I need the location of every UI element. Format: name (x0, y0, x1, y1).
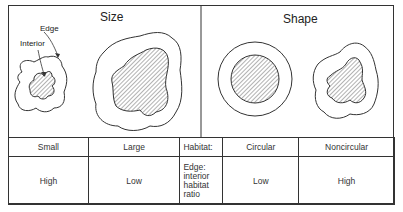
header-circular: Circular (223, 138, 299, 157)
comparison-table: Small Large Habitat: Circular Noncircula… (8, 137, 395, 205)
shape-panel-title: Shape (283, 12, 318, 26)
header-habitat: Habitat: (180, 138, 223, 157)
value-noncircular: High (299, 157, 395, 205)
circular-patch-interior (231, 55, 279, 103)
interior-arrow (38, 50, 44, 74)
noncircular-patch-figure (313, 43, 378, 118)
small-patch-interior (29, 72, 55, 100)
large-patch-interior (112, 48, 169, 116)
large-patch-figure (93, 33, 182, 131)
value-circular: Low (223, 157, 299, 205)
header-noncircular: Noncircular (299, 138, 395, 157)
edge-label: Edge (40, 24, 59, 33)
edge-arrow (44, 32, 58, 56)
interior-label: Interior (20, 39, 45, 48)
circular-patch-figure (218, 42, 292, 116)
value-small: High (9, 157, 89, 205)
table-header-row: Small Large Habitat: Circular Noncircula… (9, 138, 395, 157)
table-value-row: High Low Edge: interior habitat ratio Lo… (9, 157, 395, 205)
size-panel-title: Size (100, 10, 123, 24)
row-label-line: ratio (183, 190, 220, 199)
header-large: Large (88, 138, 180, 157)
header-small: Small (9, 138, 89, 157)
row-label-edge-interior-ratio: Edge: interior habitat ratio (180, 157, 223, 205)
value-large: Low (88, 157, 180, 205)
noncircular-patch-interior (327, 58, 366, 103)
